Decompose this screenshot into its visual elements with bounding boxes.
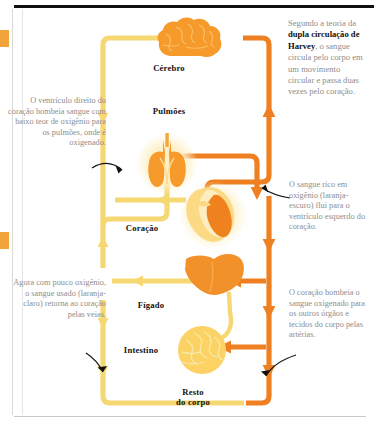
trachea [165,133,168,147]
intro-line2: da [348,18,356,28]
organ-label-liver: Fígado [122,300,180,310]
organ-label-body: Resto do corpo [162,387,224,407]
organ-label-lungs: Pulmões [140,106,198,116]
arrow-down-to-heart [251,187,264,200]
organ-intestine [178,326,226,374]
arrow-up-aorta [263,104,276,117]
organ-label-brain: Cérebro [140,63,198,73]
brain-shape [158,18,222,58]
vein-portal-intestine-liver [222,292,231,338]
intro-paragraph: Segundo a teoria da dupla circulação de … [288,18,368,98]
organ-brain [158,18,222,58]
note-oxygen-rich: O sangue rico em oxigênio (laranja-escur… [289,180,371,233]
figure-root: Segundo a teoria da dupla circulação de … [0,0,374,425]
arrow-up-left-lower [98,236,109,247]
note-venous-return: Agora com pouco oxigênio, o sangue usado… [8,278,106,320]
intro-line1: Segundo a teoria [288,18,346,28]
organ-heart [179,181,247,249]
liver-shape [185,254,244,295]
arrow-down-aorta-2 [263,306,276,319]
arrow-left-heart-out [156,195,167,206]
organ-label-intestine: Intestino [110,345,172,355]
artery-heart-to-aorta [207,38,269,203]
organ-liver [185,254,244,295]
note-right-ventricle: O ventrículo direito do coração bombeia … [8,96,106,149]
organ-lungs [136,133,198,195]
arrow-left-liver [132,276,143,287]
arrow-down-aorta-1 [263,239,276,252]
organ-label-heart: Coração [113,223,171,233]
note-arteries: O coração bombeia o sangue oxigenado par… [289,288,371,341]
